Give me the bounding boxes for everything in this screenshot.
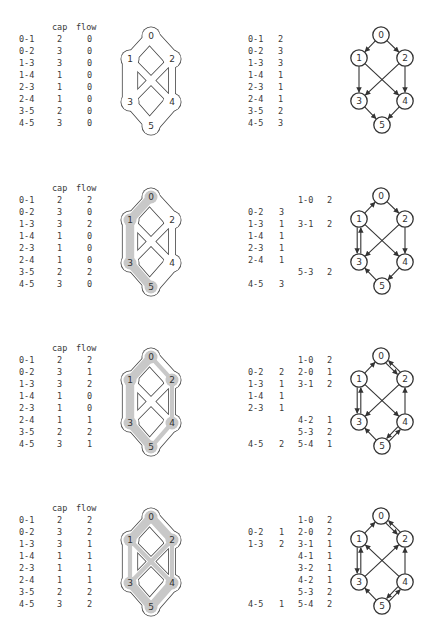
flow-network-graph: 012345012345 [0,343,436,503]
residual-edge-1-0 [365,202,375,213]
flow-node-4: 4 [169,97,175,107]
residual-node-label: 2 [402,214,408,224]
flow-network-graph: 012345012345 [0,183,436,343]
residual-node-label: 5 [379,441,385,451]
residual-node-label: 5 [379,281,385,291]
residual-edge-2-0 [389,521,401,532]
flow-node-2: 2 [169,535,175,545]
residual-node-label: 1 [356,53,362,63]
flow-node-3: 3 [127,258,133,268]
flow-node-1: 1 [127,54,133,64]
flow-node-0: 0 [148,512,154,522]
residual-node-label: 0 [378,351,384,361]
residual-edge-3-5 [365,107,376,119]
residual-node-label: 2 [402,53,408,63]
flow-node-5: 5 [148,282,154,292]
flow-network-graph: 012345012345 [0,22,436,182]
residual-node-label: 0 [378,511,384,521]
flow-node-5: 5 [148,121,154,131]
residual-edge-2-0 [389,361,401,372]
step-section-2: capflow0-1220-2301-3321-4102-3102-4103-5… [0,183,436,343]
residual-node-label: 2 [402,374,408,384]
flow-node-0: 0 [148,352,154,362]
residual-node-label: 4 [402,577,408,587]
residual-node-label: 3 [356,417,362,427]
residual-edge-4-5 [388,268,399,280]
residual-node-label: 5 [379,120,385,130]
residual-edge-0-1 [365,41,375,52]
flow-node-2: 2 [169,54,175,64]
flow-node-5: 5 [148,602,154,612]
flow-node-4: 4 [169,418,175,428]
residual-node-label: 1 [356,534,362,544]
residual-edge-5-3 [365,588,376,600]
flow-node-2: 2 [169,215,175,225]
flow-node-1: 1 [127,375,133,385]
residual-node-label: 1 [356,214,362,224]
residual-node-label: 0 [378,191,384,201]
residual-node-label: 0 [378,30,384,40]
flow-node-1: 1 [127,535,133,545]
flow-node-4: 4 [169,578,175,588]
residual-node-label: 5 [379,601,385,611]
flow-node-3: 3 [127,97,133,107]
residual-node-label: 2 [402,534,408,544]
step-section-4: capflow0-1220-2321-3311-4112-3112-4113-5… [0,503,436,617]
flow-node-2: 2 [169,375,175,385]
residual-edge-0-2 [387,202,399,213]
residual-edge-0-2 [386,523,398,534]
residual-edge-4-5 [387,427,398,439]
step-section-1: capflow0-1200-2301-3301-4102-3102-4103-5… [0,22,436,182]
flow-node-1: 1 [127,215,133,225]
residual-node-label: 4 [402,96,408,106]
residual-edge-0-2 [386,363,398,374]
residual-edge-0-2 [387,41,399,52]
residual-node-label: 1 [356,374,362,384]
residual-node-label: 3 [356,96,362,106]
flow-node-5: 5 [148,442,154,452]
flow-node-3: 3 [127,578,133,588]
flow-node-0: 0 [148,192,154,202]
residual-edge-5-4 [389,430,400,442]
flow-network-graph: 012345012345 [0,503,436,617]
flow-node-3: 3 [127,418,133,428]
residual-edge-5-3 [365,268,376,280]
step-section-3: capflow0-1220-2311-3321-4102-3102-4113-5… [0,343,436,503]
residual-node-label: 4 [402,417,408,427]
residual-edge-1-0 [365,362,375,373]
residual-node-label: 3 [356,577,362,587]
residual-node-label: 3 [356,257,362,267]
residual-edge-4-5 [387,587,398,599]
residual-edge-5-3 [365,428,376,440]
residual-edge-1-0 [365,522,375,533]
residual-edge-4-5 [388,107,399,119]
residual-edge-5-4 [389,590,400,602]
flow-node-0: 0 [148,31,154,41]
residual-node-label: 4 [402,257,408,267]
flow-node-4: 4 [169,258,175,268]
